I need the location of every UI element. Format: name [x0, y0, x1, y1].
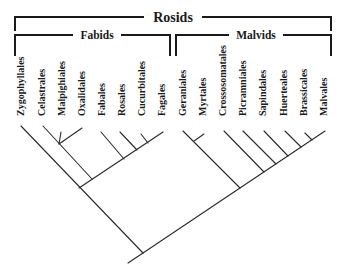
- branch-huerteales: [285, 131, 301, 147]
- branch-cucurbitales: [141, 134, 148, 143]
- tip-rosales: Rosales: [116, 84, 127, 116]
- branch-brassicales: [305, 133, 312, 140]
- rosids-bracket: Rosids: [15, 10, 331, 31]
- tip-oxalidales: Oxalidales: [76, 71, 87, 116]
- branch-picramniales: [243, 131, 276, 164]
- rosids-label: Rosids: [153, 10, 193, 25]
- tip-malvales: Malvales: [318, 78, 329, 116]
- tip-geraniales: Geraniales: [177, 70, 188, 116]
- tip-sapindales: Sapindales: [257, 70, 268, 116]
- branch-zygophyllales: [21, 126, 143, 253]
- branch-geraniales: [183, 131, 240, 188]
- branch-myrtales: [194, 134, 204, 141]
- tip-picramniales: Picramniales: [237, 60, 248, 116]
- tip-crossosomatales: Crossosomatales: [217, 45, 228, 116]
- tip-celastrales: Celastrales: [36, 69, 47, 116]
- branch-fabids-core: [79, 132, 163, 188]
- branch-rosales: [120, 132, 137, 150]
- rosids-cladogram: Rosids Fabids Malvids Zygophyllales Cela…: [0, 0, 342, 271]
- tip-zygophyllales: Zygophyllales: [15, 56, 26, 116]
- malvids-bracket: Malvids: [176, 29, 331, 56]
- fabids-bracket: Fabids: [15, 29, 170, 56]
- tip-fabales: Fabales: [96, 83, 107, 116]
- branch-oxalidales: [59, 128, 82, 144]
- fabids-label: Fabids: [80, 29, 114, 41]
- branch-fabales: [101, 132, 124, 159]
- malvids-label: Malvids: [236, 29, 276, 41]
- cladogram-svg: Rosids Fabids Malvids Zygophyllales Cela…: [0, 0, 342, 271]
- tree-branches: [21, 126, 325, 263]
- branch-crossosomatales: [224, 131, 264, 172]
- tip-cucurbitales: Cucurbitales: [136, 61, 147, 116]
- tip-huerteales: Huerteales: [278, 70, 289, 116]
- branch-sapindales: [264, 131, 288, 156]
- branch-celastrales: [43, 126, 92, 179]
- tip-brassicales: Brassicales: [298, 69, 309, 116]
- tip-myrtales: Myrtales: [197, 78, 208, 116]
- branch-malvales: [143, 131, 325, 253]
- tip-fagales: Fagales: [156, 84, 167, 116]
- tip-malpighiales: Malpighiales: [56, 61, 67, 116]
- tip-labels: Zygophyllales Celastrales Malpighiales O…: [15, 45, 329, 116]
- root-branch: [128, 253, 143, 263]
